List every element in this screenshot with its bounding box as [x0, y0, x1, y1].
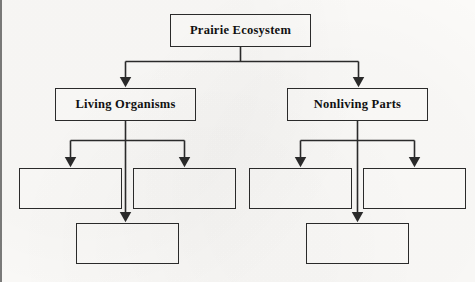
diagram-canvas: Prairie Ecosystem Living Organisms Nonli… — [0, 0, 475, 282]
node-prairie-ecosystem[interactable]: Prairie Ecosystem — [170, 14, 311, 47]
node-label-root: Prairie Ecosystem — [190, 24, 291, 37]
blank-box-nonliving-child-2[interactable] — [363, 168, 466, 209]
node-label-nonliving: Nonliving Parts — [314, 98, 401, 111]
blank-box-living-child-1[interactable] — [19, 168, 122, 209]
node-label-living: Living Organisms — [75, 98, 175, 111]
blank-box-nonliving-child-1[interactable] — [249, 168, 352, 209]
blank-box-nonliving-child-3[interactable] — [306, 223, 409, 264]
node-nonliving-parts[interactable]: Nonliving Parts — [287, 88, 428, 121]
node-living-organisms[interactable]: Living Organisms — [55, 88, 196, 121]
page-edge-line — [0, 0, 2, 282]
blank-box-living-child-3[interactable] — [76, 223, 179, 264]
blank-box-living-child-2[interactable] — [133, 168, 236, 209]
